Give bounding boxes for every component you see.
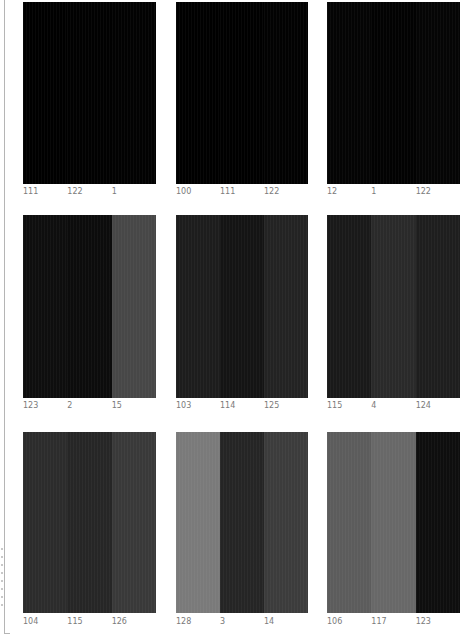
- color-stripe: [264, 2, 308, 184]
- color-stripe: [67, 215, 111, 398]
- stripe-label: 115: [67, 617, 111, 626]
- stripe-label: 1: [112, 187, 156, 196]
- stripe-label: 3: [220, 617, 264, 626]
- stripe-label: 111: [220, 187, 264, 196]
- stripe-label: 104: [23, 617, 67, 626]
- color-stripe: [67, 432, 111, 613]
- stripe-label: 126: [112, 617, 156, 626]
- stripe-label: 103: [176, 401, 220, 410]
- page-edge-line: [4, 0, 5, 634]
- swatch-panel: [176, 2, 308, 184]
- stripe-label: 117: [371, 617, 415, 626]
- stripe-label: 114: [220, 401, 264, 410]
- color-stripe: [264, 215, 308, 398]
- stripe-label: 100: [176, 187, 220, 196]
- stripe-label: 12: [327, 187, 371, 196]
- color-stripe: [112, 2, 156, 184]
- stripe-label: 122: [264, 187, 308, 196]
- swatch-panel: [327, 432, 460, 613]
- swatch-panel: [23, 432, 156, 613]
- color-stripe: [23, 2, 67, 184]
- color-stripe: [416, 215, 460, 398]
- swatch-labels: 1111221: [23, 187, 156, 196]
- swatch-labels: 1154124: [327, 401, 460, 410]
- stripe-label: 123: [416, 617, 460, 626]
- swatch-labels: 103114125: [176, 401, 308, 410]
- color-stripe: [112, 215, 156, 398]
- swatch-labels: 121122: [327, 187, 460, 196]
- stripe-label: 2: [67, 401, 111, 410]
- swatch-labels: 123215: [23, 401, 156, 410]
- color-stripe: [176, 215, 220, 398]
- stripe-label: 122: [416, 187, 460, 196]
- stripe-label: 115: [327, 401, 371, 410]
- stripe-label: 122: [67, 187, 111, 196]
- color-stripe: [220, 215, 264, 398]
- swatch-panel: [23, 2, 156, 184]
- color-stripe: [23, 432, 67, 613]
- swatch-panel: [176, 432, 308, 613]
- color-stripe: [220, 432, 264, 613]
- color-stripe: [371, 2, 415, 184]
- color-stripe: [264, 432, 308, 613]
- stripe-label: 125: [264, 401, 308, 410]
- color-stripe: [371, 432, 415, 613]
- stripe-label: 128: [176, 617, 220, 626]
- stripe-label: 106: [327, 617, 371, 626]
- color-stripe: [327, 215, 371, 398]
- color-stripe: [371, 215, 415, 398]
- color-stripe: [176, 432, 220, 613]
- swatch-labels: 128314: [176, 617, 308, 626]
- stripe-label: 4: [371, 401, 415, 410]
- stripe-label: 123: [23, 401, 67, 410]
- page-edge-tick: [4, 633, 10, 634]
- swatch-panel: [23, 215, 156, 398]
- color-stripe: [416, 432, 460, 613]
- swatch-panel: [327, 2, 460, 184]
- stripe-label: 14: [264, 617, 308, 626]
- stripe-label: 1: [371, 187, 415, 196]
- swatch-panel: [176, 215, 308, 398]
- swatch-labels: 104115126: [23, 617, 156, 626]
- swatch-panel: [327, 215, 460, 398]
- color-stripe: [67, 2, 111, 184]
- color-stripe: [327, 2, 371, 184]
- color-stripe: [327, 432, 371, 613]
- margin-dots: [1, 548, 3, 610]
- color-stripe: [416, 2, 460, 184]
- color-stripe: [220, 2, 264, 184]
- stripe-label: 15: [112, 401, 156, 410]
- color-stripe: [176, 2, 220, 184]
- swatch-labels: 100111122: [176, 187, 308, 196]
- stripe-label: 111: [23, 187, 67, 196]
- swatch-labels: 106117123: [327, 617, 460, 626]
- color-stripe: [23, 215, 67, 398]
- stripe-label: 124: [416, 401, 460, 410]
- color-stripe: [112, 432, 156, 613]
